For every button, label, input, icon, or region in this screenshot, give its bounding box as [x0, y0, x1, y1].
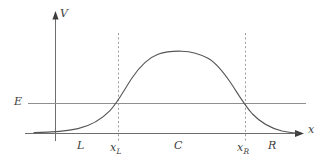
potential-axis-label: V	[60, 8, 68, 19]
right-turning-point-base: x	[237, 141, 243, 154]
potential-barrier-figure: V x E L C R xL xR	[0, 0, 331, 166]
potential-curve	[34, 51, 298, 133]
left-turning-point-subscript: L	[117, 147, 122, 156]
region-label-center: C	[174, 140, 182, 151]
region-label-left: L	[77, 140, 84, 151]
right-turning-point-label: xR	[237, 142, 249, 153]
potential-axis-arrowhead	[52, 11, 58, 20]
left-turning-point-base: x	[110, 141, 116, 154]
potential-axis-group	[52, 11, 58, 141]
left-turning-point-label: xL	[110, 142, 121, 153]
region-label-right: R	[268, 140, 276, 151]
right-turning-point-subscript: R	[244, 147, 250, 156]
energy-level-label: E	[14, 96, 22, 107]
figure-canvas	[0, 0, 331, 166]
position-axis-label: x	[308, 124, 314, 135]
position-axis-group	[25, 130, 304, 137]
